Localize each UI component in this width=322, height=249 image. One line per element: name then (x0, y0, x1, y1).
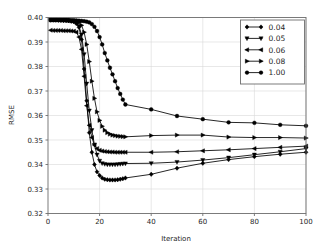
x-tick-label: 40 (147, 218, 156, 226)
legend-label: 0.08 (269, 57, 286, 66)
x-axis-title: Iteration (161, 235, 191, 243)
marker-circle (95, 29, 99, 33)
y-tick-label: 0.37 (27, 88, 43, 96)
x-tick-label: 20 (95, 218, 104, 226)
marker-triangle-right (124, 135, 128, 139)
marker-circle (121, 98, 125, 102)
legend-label: 0.04 (269, 23, 286, 32)
marker-circle (98, 35, 102, 39)
marker-tri (95, 153, 99, 157)
marker-triangle-right (279, 135, 283, 139)
marker-diamond (149, 172, 153, 176)
y-axis-title: RMSE (8, 105, 16, 125)
legend-label: 0.05 (269, 34, 286, 43)
marker-triangle-right (175, 133, 179, 137)
y-tick-label: 0.32 (27, 210, 43, 218)
x-tick-label: 60 (198, 218, 207, 226)
legend-label: 1.00 (269, 68, 286, 77)
marker-circle (113, 79, 117, 83)
y-tick-label: 0.39 (27, 39, 43, 47)
marker-circle (227, 120, 231, 124)
y-tick-label: 0.34 (27, 161, 43, 169)
y-tick-label: 0.40 (27, 14, 43, 22)
y-tick-label: 0.35 (27, 137, 43, 145)
marker-circle (149, 107, 153, 111)
marker-circle (245, 71, 249, 75)
x-tick-label: 0 (46, 218, 50, 226)
marker-circle (201, 117, 205, 121)
rmse-vs-iteration-chart: 0204060801000.320.330.340.350.360.370.38… (0, 0, 322, 249)
marker-circle (111, 72, 115, 76)
marker-circle (278, 123, 282, 127)
chart-figure: 0204060801000.320.330.340.350.360.370.38… (0, 0, 322, 249)
marker-triangle-right (253, 135, 257, 139)
marker-circle (118, 92, 122, 96)
x-tick-label: 100 (299, 218, 312, 226)
marker-triangle-right (227, 135, 231, 139)
marker-diamond (90, 150, 94, 154)
marker-triangle-left (226, 148, 230, 152)
legend-label: 0.06 (269, 46, 286, 55)
marker-circle (116, 86, 120, 90)
marker-circle (175, 114, 179, 118)
marker-circle (124, 103, 128, 107)
y-tick-label: 0.36 (27, 112, 43, 120)
y-tick-label: 0.38 (27, 63, 43, 71)
chart-legend[interactable]: 0.040.050.060.081.00 (241, 20, 305, 84)
marker-circle (100, 43, 104, 47)
y-tick-label: 0.33 (27, 186, 43, 194)
marker-triangle-left (175, 150, 179, 154)
x-tick-label: 80 (250, 218, 259, 226)
marker-circle (93, 25, 97, 29)
marker-circle (103, 51, 107, 55)
marker-circle (108, 66, 112, 70)
marker-circle (105, 58, 109, 62)
marker-diamond (92, 162, 96, 166)
marker-triangle-right (100, 124, 104, 128)
marker-diamond (175, 166, 179, 170)
marker-circle (253, 121, 257, 125)
marker-circle (259, 71, 263, 75)
marker-triangle-left (278, 145, 282, 149)
